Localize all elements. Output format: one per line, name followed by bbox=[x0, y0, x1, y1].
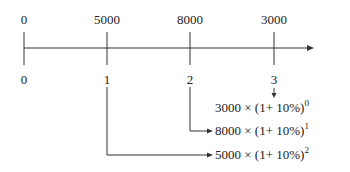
axis-arrow-icon bbox=[307, 45, 314, 51]
formula: 3000 × (1+ 10%)0 bbox=[215, 101, 309, 115]
cash-flow-label: 5000 bbox=[94, 13, 120, 27]
period-label: 3 bbox=[271, 73, 278, 87]
period-label: 2 bbox=[187, 73, 194, 87]
cash-flow-label: 0 bbox=[21, 13, 28, 27]
formula: 8000 × (1+ 10%)1 bbox=[215, 124, 309, 138]
period-label: 1 bbox=[104, 73, 111, 87]
arrow-icon bbox=[207, 129, 213, 134]
period-label: 0 bbox=[21, 73, 28, 87]
cash-flow-label: 8000 bbox=[177, 13, 203, 27]
cash-flow-label: 3000 bbox=[261, 13, 287, 27]
arrow-icon bbox=[207, 153, 213, 158]
formula: 5000 × (1+ 10%)2 bbox=[215, 148, 309, 162]
arrow-icon bbox=[272, 93, 277, 98]
